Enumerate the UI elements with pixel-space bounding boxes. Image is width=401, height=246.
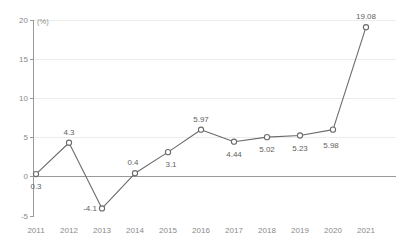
data-point-label: 3.1 — [165, 160, 177, 169]
data-point-label: 0.4 — [127, 158, 139, 167]
data-point-label: 0.3 — [30, 182, 42, 191]
x-axis-tick-label: 2021 — [357, 226, 375, 235]
data-point-marker[interactable] — [297, 133, 302, 138]
x-axis-tick-label: 2020 — [324, 226, 342, 235]
line-chart: 20 15 10 5 0 -5 (%) 0.3 4.3 -4.1 0.4 — [0, 0, 401, 246]
data-point-label: 5.23 — [292, 144, 308, 153]
y-axis-tick-label: 20 — [19, 16, 28, 25]
data-point-labels: 0.3 4.3 -4.1 0.4 3.1 5.97 4.44 5.02 5.23… — [30, 12, 376, 213]
data-point-marker[interactable] — [165, 150, 170, 155]
x-axis-labels: 2011 2012 2013 2014 2015 2016 2017 2018 … — [27, 226, 375, 235]
y-axis-tick-label: -5 — [21, 212, 29, 221]
data-point-marker[interactable] — [33, 171, 38, 176]
chart-canvas: 20 15 10 5 0 -5 (%) 0.3 4.3 -4.1 0.4 — [0, 0, 401, 246]
data-point-marker[interactable] — [99, 206, 104, 211]
x-axis-tick-label: 2019 — [291, 226, 309, 235]
data-point-marker[interactable] — [363, 25, 368, 30]
x-axis-tick-label: 2017 — [225, 226, 243, 235]
y-axis-unit-label: (%) — [37, 17, 49, 26]
data-point-label: 5.02 — [259, 145, 275, 154]
data-point-marker[interactable] — [264, 135, 269, 140]
x-axis-tick-label: 2015 — [159, 226, 177, 235]
data-point-marker[interactable] — [66, 140, 71, 145]
y-axis-tick-label: 10 — [19, 94, 28, 103]
data-point-marker[interactable] — [198, 127, 203, 132]
x-axis-tick-label: 2016 — [192, 226, 210, 235]
y-axis-tick-label: 0 — [24, 172, 29, 181]
data-point-marker[interactable] — [330, 127, 335, 132]
x-axis-tick-label: 2011 — [27, 226, 45, 235]
data-point-label: 4.44 — [226, 150, 242, 159]
x-axis-tick-label: 2018 — [258, 226, 276, 235]
data-point-label: -4.1 — [83, 204, 97, 213]
gridlines — [34, 21, 397, 138]
data-point-label: 5.98 — [323, 141, 339, 150]
y-axis-tick-label: 15 — [19, 55, 28, 64]
data-point-label: 19.08 — [356, 12, 377, 21]
x-axis-tick-label: 2014 — [126, 226, 144, 235]
y-axis-labels: 20 15 10 5 0 -5 — [19, 16, 28, 221]
data-point-marker[interactable] — [132, 171, 137, 176]
y-axis-tick-label: 5 — [24, 133, 29, 142]
data-point-label: 5.97 — [193, 115, 209, 124]
data-point-label: 4.3 — [63, 128, 75, 137]
data-point-marker[interactable] — [231, 139, 236, 144]
x-axis-tick-label: 2012 — [60, 226, 78, 235]
x-axis-tick-label: 2013 — [93, 226, 111, 235]
